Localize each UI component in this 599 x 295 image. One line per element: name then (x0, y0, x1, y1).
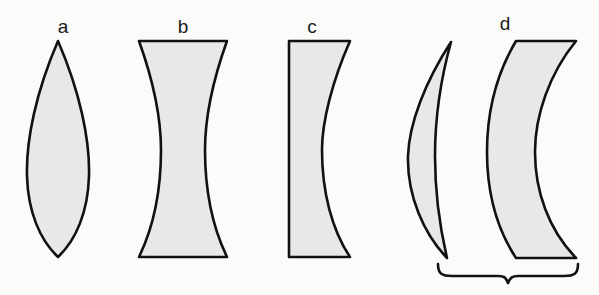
lens-b-label: b (178, 16, 189, 37)
lens-a-label: a (58, 16, 69, 37)
lens-c-label: c (307, 16, 317, 37)
lens-d-label: d (500, 13, 511, 34)
lens-diagram-canvas: a b c d (0, 0, 599, 295)
lens-diagram-figure: a b c d (0, 0, 599, 295)
